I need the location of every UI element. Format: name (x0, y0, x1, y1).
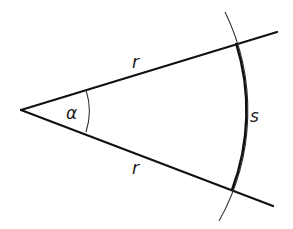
lower-radius-line (21, 110, 273, 206)
sector-diagram: r r α s (0, 0, 293, 229)
label-radius-upper: r (132, 52, 140, 72)
arc-length-s (232, 43, 246, 190)
angle-alpha-arc (86, 90, 89, 132)
label-angle-alpha: α (66, 103, 77, 123)
upper-radius-line (21, 32, 277, 110)
label-radius-lower: r (132, 158, 140, 178)
label-arc-s: s (250, 106, 259, 126)
